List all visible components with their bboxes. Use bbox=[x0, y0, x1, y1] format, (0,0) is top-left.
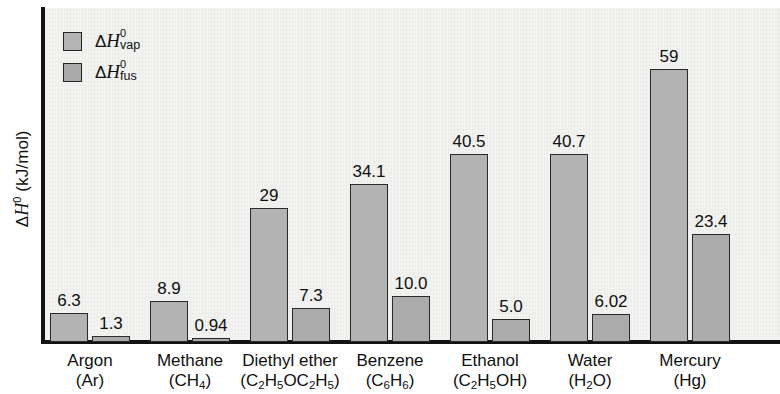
y-axis-title-unit: (kJ/mol) bbox=[13, 130, 32, 196]
x-axis-label-6: Mercury(Hg) bbox=[631, 351, 749, 391]
bar-vap-2 bbox=[250, 208, 288, 342]
bar-fus-5 bbox=[592, 314, 630, 342]
bar-fus-1 bbox=[192, 338, 230, 342]
bar-value-vap-5: 40.7 bbox=[537, 132, 601, 152]
legend-swatch-vap-icon bbox=[63, 32, 82, 51]
x-axis-label-formula-6: (Hg) bbox=[631, 371, 749, 391]
bar-value-fus-2: 7.3 bbox=[279, 286, 343, 306]
legend-fus-var: H bbox=[106, 61, 120, 82]
legend-vap-sub: vap bbox=[120, 38, 140, 52]
bar-fus-4 bbox=[492, 319, 530, 342]
y-axis-title-delta: Δ bbox=[13, 216, 32, 227]
bar-value-vap-1: 8.9 bbox=[137, 279, 201, 299]
y-axis-title-superscript: 0 bbox=[11, 196, 23, 202]
bar-value-vap-0: 6.3 bbox=[37, 291, 101, 311]
bar-value-fus-4: 5.0 bbox=[479, 297, 543, 317]
legend-vap-delta: Δ bbox=[95, 32, 106, 51]
legend-fus-supsub: 0fus bbox=[120, 65, 142, 84]
bar-value-fus-6: 23.4 bbox=[679, 212, 743, 232]
bar-value-fus-5: 6.02 bbox=[579, 292, 643, 312]
bar-value-fus-0: 1.3 bbox=[79, 314, 143, 334]
bar-fus-3 bbox=[392, 296, 430, 342]
x-axis-label-name-6: Mercury bbox=[631, 351, 749, 371]
bar-value-vap-2: 29 bbox=[237, 186, 301, 206]
bar-fus-2 bbox=[292, 308, 330, 342]
legend-swatch-fus-icon bbox=[63, 63, 82, 82]
bar-vap-6 bbox=[650, 69, 688, 342]
legend-item-fus: ΔH0fus bbox=[63, 57, 142, 88]
legend-vap-var: H bbox=[106, 30, 120, 51]
bar-fus-0 bbox=[92, 336, 130, 342]
y-axis-title-var: H bbox=[12, 203, 32, 216]
bar-value-fus-3: 10.0 bbox=[379, 274, 443, 294]
enthalpy-bar-chart: ΔH0 (kJ/mol) ΔH0vap ΔH0fus 6.31.38.90.94… bbox=[0, 0, 780, 394]
bar-value-vap-3: 34.1 bbox=[337, 162, 401, 182]
bar-vap-5 bbox=[550, 154, 588, 342]
bar-fus-6 bbox=[692, 234, 730, 342]
legend-label-fus: ΔH0fus bbox=[95, 61, 142, 83]
legend-fus-sub: fus bbox=[120, 69, 137, 83]
y-axis-title: ΔH0 (kJ/mol) bbox=[11, 79, 33, 279]
bar-value-fus-1: 0.94 bbox=[179, 316, 243, 336]
legend-vap-supsub: 0vap bbox=[120, 34, 142, 53]
legend-label-vap: ΔH0vap bbox=[95, 30, 142, 52]
bar-vap-3 bbox=[350, 184, 388, 342]
chart-legend: ΔH0vap ΔH0fus bbox=[63, 26, 142, 88]
bar-value-vap-6: 59 bbox=[637, 47, 701, 67]
legend-item-vap: ΔH0vap bbox=[63, 26, 142, 57]
bar-value-vap-4: 40.5 bbox=[437, 132, 501, 152]
legend-fus-delta: Δ bbox=[95, 63, 106, 82]
